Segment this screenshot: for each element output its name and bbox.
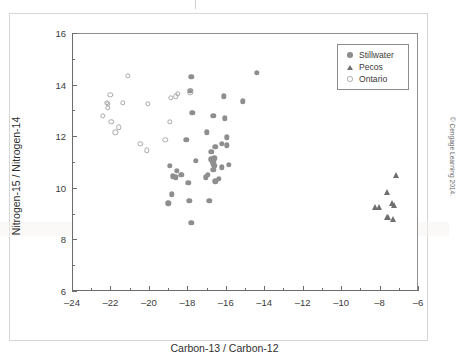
data-point-stillwater: [226, 162, 231, 167]
x-tick: [380, 286, 381, 291]
x-tick-label: –16: [218, 297, 234, 308]
data-point-ontario: [100, 113, 105, 118]
x-tick-label: –24: [64, 297, 80, 308]
data-point-stillwater: [240, 99, 245, 104]
data-point-stillwater: [211, 167, 216, 172]
data-point-stillwater: [254, 70, 259, 75]
x-tick: [130, 288, 131, 291]
data-point-stillwater: [224, 135, 229, 140]
y-tick-label: 8: [48, 234, 66, 245]
data-point-ontario: [116, 124, 121, 129]
data-point-pecos: [391, 202, 397, 208]
legend-item-pecos: Pecos: [344, 61, 403, 73]
y-tick: [72, 59, 75, 60]
data-point-stillwater: [188, 220, 193, 225]
data-point-stillwater: [184, 137, 189, 142]
open-circle-icon: [344, 76, 356, 81]
legend-label-stillwater: Stillwater: [359, 50, 394, 60]
data-point-stillwater: [209, 149, 214, 154]
data-point-stillwater: [167, 163, 172, 168]
copyright-credit: © Cengage Learning 2014.: [449, 117, 456, 196]
data-point-ontario: [167, 119, 172, 124]
legend-item-ontario: Ontario: [344, 73, 403, 85]
data-point-stillwater: [186, 180, 191, 185]
plot-frame-right: [417, 33, 418, 291]
data-point-stillwater: [189, 110, 194, 115]
data-point-stillwater: [222, 115, 227, 120]
x-tick: [399, 288, 400, 291]
x-tick: [264, 286, 265, 291]
y-tick: [72, 85, 77, 86]
data-point-stillwater: [169, 192, 174, 197]
y-tick: [72, 265, 75, 266]
y-tick: [72, 291, 77, 292]
y-tick: [72, 162, 75, 163]
y-axis-title: Nitrogen-15 / Nitrogen-14: [10, 117, 22, 235]
data-point-stillwater: [221, 94, 226, 99]
data-point-stillwater: [213, 179, 218, 184]
x-tick: [168, 288, 169, 291]
x-tick-label: –22: [103, 297, 119, 308]
y-tick-label: 16: [48, 28, 66, 39]
x-tick: [226, 286, 227, 291]
y-tick: [72, 136, 77, 137]
x-tick-label: –20: [141, 297, 157, 308]
x-tick-label: –14: [256, 297, 272, 308]
x-axis-title: Carbon-13 / Carbon-12: [171, 342, 279, 352]
y-tick-label: 6: [48, 286, 66, 297]
data-point-ontario: [113, 130, 118, 135]
data-point-ontario: [108, 92, 113, 97]
data-point-stillwater: [211, 113, 216, 118]
data-point-ontario: [163, 137, 168, 142]
x-tick-label: –12: [295, 297, 311, 308]
x-tick: [149, 286, 150, 291]
data-point-stillwater: [204, 130, 209, 135]
page-rule-mark: [195, 0, 196, 9]
y-tick: [72, 214, 75, 215]
chart-legend: Stillwater Pecos Ontario: [337, 44, 409, 90]
data-point-ontario: [109, 119, 114, 124]
data-point-stillwater: [205, 172, 210, 177]
legend-label-ontario: Ontario: [359, 74, 387, 84]
data-point-ontario: [144, 148, 149, 153]
x-tick: [303, 286, 304, 291]
y-tick: [72, 110, 75, 111]
y-tick: [72, 188, 77, 189]
data-point-stillwater: [187, 198, 192, 203]
data-point-ontario: [138, 141, 143, 146]
plot-frame-top: [72, 33, 418, 34]
data-point-pecos: [376, 204, 382, 210]
data-point-pecos: [385, 214, 391, 220]
y-tick-label: 14: [48, 79, 66, 90]
data-point-pecos: [393, 172, 399, 178]
data-point-ontario: [125, 73, 130, 78]
x-tick: [245, 288, 246, 291]
x-tick-label: –8: [374, 297, 385, 308]
data-point-ontario: [105, 105, 110, 110]
x-tick: [110, 286, 111, 291]
data-point-ontario: [120, 100, 125, 105]
y-tick-label: 12: [48, 131, 66, 142]
data-point-stillwater: [165, 201, 170, 206]
x-tick-label: –6: [413, 297, 424, 308]
x-tick: [418, 286, 419, 291]
data-point-pecos: [384, 189, 390, 195]
data-point-ontario: [145, 101, 150, 106]
legend-label-pecos: Pecos: [359, 62, 383, 72]
data-point-ontario: [175, 91, 180, 96]
filled-triangle-icon: [344, 65, 356, 70]
y-tick: [72, 33, 77, 34]
x-tick: [187, 286, 188, 291]
data-point-stillwater: [188, 74, 193, 79]
filled-circle-icon: [344, 52, 356, 57]
legend-item-stillwater: Stillwater: [344, 49, 403, 61]
x-tick-label: –10: [333, 297, 349, 308]
x-tick: [207, 288, 208, 291]
y-tick: [72, 239, 77, 240]
x-tick-label: –18: [179, 297, 195, 308]
y-tick-label: 10: [48, 182, 66, 193]
data-point-stillwater: [207, 198, 212, 203]
x-tick: [341, 286, 342, 291]
x-tick: [322, 288, 323, 291]
